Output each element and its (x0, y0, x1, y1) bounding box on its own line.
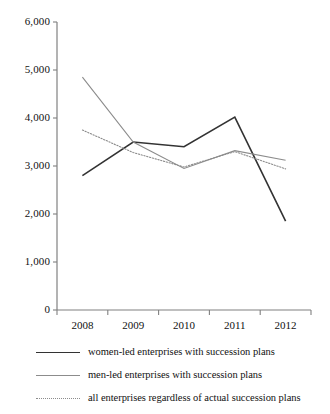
y-axis-tick-label: 0 (6, 304, 50, 315)
line-chart-figure: 01,0002,0003,0004,0005,0006,000 20082009… (0, 0, 330, 414)
dotted-gray-line-icon (36, 392, 80, 404)
y-axis-tick-label: 5,000 (6, 64, 50, 75)
chart-legend: women-led enterprises with succession pl… (0, 341, 330, 414)
x-axis-tick-label: 2011 (212, 320, 258, 331)
legend-label: men-led enterprises with succession plan… (88, 369, 262, 381)
series-line-3 (82, 130, 285, 169)
series-group (82, 77, 285, 221)
plot-area: 01,0002,0003,0004,0005,0006,000 20082009… (0, 0, 330, 340)
y-axis-tick-label: 2,000 (6, 208, 50, 219)
legend-label: all enterprises regardless of actual suc… (88, 392, 301, 404)
series-line-1 (82, 117, 285, 221)
legend-item: men-led enterprises with succession plan… (36, 364, 262, 386)
x-axis-tick-label: 2008 (59, 320, 105, 331)
legend-label: women-led enterprises with succession pl… (88, 346, 275, 358)
x-axis-tick-label: 2009 (110, 320, 156, 331)
legend-item: all enterprises regardless of actual suc… (36, 387, 301, 409)
solid-gray-line-icon (36, 369, 80, 381)
legend-item: women-led enterprises with succession pl… (36, 341, 275, 363)
y-axis-tick-label: 6,000 (6, 16, 50, 27)
solid-dark-line-icon (36, 346, 80, 358)
x-axis-tick-label: 2012 (263, 320, 309, 331)
y-axis-tick-label: 1,000 (6, 256, 50, 267)
y-axis-tick-label: 4,000 (6, 112, 50, 123)
y-axis-tick-label: 3,000 (6, 160, 50, 171)
x-axis-tick-label: 2010 (161, 320, 207, 331)
